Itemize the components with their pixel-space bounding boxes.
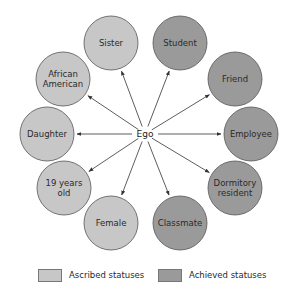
arrow-to-student	[148, 71, 169, 127]
status-node-classmate: Classmate	[153, 196, 207, 250]
arrow-to-african-american	[88, 96, 138, 130]
legend-achieved: Achieved statuses	[158, 268, 266, 282]
status-label: Employee	[230, 129, 272, 139]
achieved-legend-label: Achieved statuses	[189, 270, 266, 280]
ascribed-swatch	[38, 269, 62, 282]
status-label: Female	[96, 218, 127, 228]
status-label: Dormitory	[214, 178, 257, 188]
status-node-19-years-old: 19 yearsold	[37, 161, 91, 215]
status-label: Sister	[99, 38, 124, 48]
status-label: Classmate	[158, 218, 202, 228]
ascribed-legend-label: Ascribed statuses	[69, 270, 144, 280]
status-node-employee: Employee	[224, 107, 278, 161]
status-label: resident	[218, 188, 253, 198]
status-label: Daughter	[27, 129, 67, 139]
status-node-female: Female	[84, 196, 138, 250]
status-label: old	[58, 188, 71, 198]
achieved-swatch	[158, 269, 182, 282]
status-node-friend: Friend	[208, 52, 262, 106]
status-node-daughter: Daughter	[20, 107, 74, 161]
status-node-sister: Sister	[84, 16, 138, 70]
status-node-dormitory-resident: Dormitoryresident	[208, 161, 262, 215]
arrow-to-dormitory-resident	[152, 138, 209, 172]
status-label: African	[48, 69, 78, 79]
status-label: American	[43, 79, 83, 89]
arrow-to-classmate	[148, 141, 169, 195]
ego-label: Ego	[137, 129, 154, 139]
arrow-to-sister	[121, 71, 142, 126]
status-label: Friend	[222, 74, 248, 84]
arrow-to-19-years-old	[89, 138, 138, 171]
status-node-african-american: AfricanAmerican	[36, 52, 90, 106]
legend-ascribed: Ascribed statuses	[38, 268, 144, 282]
status-label: 19 years	[46, 178, 83, 188]
status-set-diagram: SisterAfricanAmericanDaughter19 yearsold…	[0, 0, 286, 305]
status-node-student: Student	[153, 16, 207, 70]
arrow-to-friend	[152, 95, 210, 130]
status-label: Student	[163, 38, 197, 48]
arrow-to-female	[122, 141, 142, 195]
